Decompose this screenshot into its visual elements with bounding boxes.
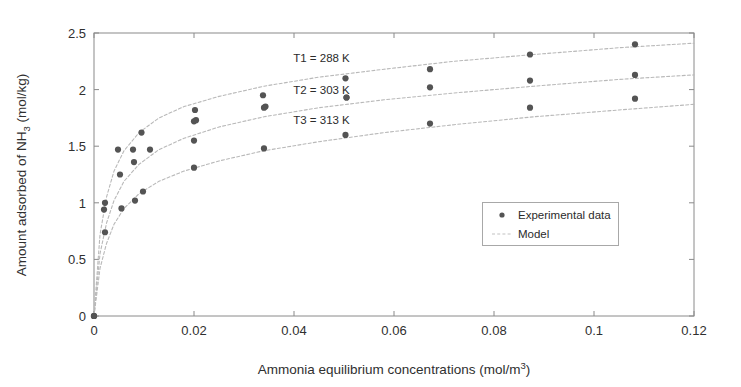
chart-legend[interactable]: Experimental data Model: [483, 203, 619, 246]
legend-label-model: Model: [518, 228, 549, 240]
data-point-s0-5: [192, 107, 198, 113]
y-tick-label-3: 1.5: [68, 139, 86, 154]
data-point-s2-1: [102, 229, 108, 235]
x-tick-label-4: 0.08: [481, 323, 506, 338]
y-tick-label-2: 1: [79, 196, 86, 211]
experimental-points-group: [91, 41, 638, 319]
chart-canvas: 00.020.040.060.080.10.1200.511.522.5 T1 …: [0, 0, 741, 387]
x-tick-label-5: 0.1: [585, 323, 603, 338]
data-point-s1-10: [527, 77, 533, 83]
data-point-s0-1: [102, 200, 108, 206]
data-point-s0-2: [115, 147, 121, 153]
data-point-s1-3: [131, 159, 137, 165]
data-point-s2-3: [132, 197, 138, 203]
data-point-s2-9: [527, 105, 533, 111]
annotation-2: T2 = 303 K: [293, 84, 350, 96]
x-tick-label-2: 0.04: [281, 323, 306, 338]
data-point-s2-0: [91, 313, 97, 319]
data-point-s2-4: [140, 188, 146, 194]
x-tick-label-6: 0.12: [681, 323, 706, 338]
y-axis-title-tail: (mol/kg): [14, 74, 29, 127]
series-annotations-group: T1 = 288 KT2 = 303 KT3 = 313 K: [293, 52, 350, 126]
data-point-s0-12: [527, 51, 533, 57]
y-tick-label-1: 0.5: [68, 252, 86, 267]
x-axis-title-tail: ): [526, 362, 531, 377]
y-axis-title: Amount adsorbed of NH3 (mol/kg): [14, 74, 32, 277]
x-axis-title: Ammonia equilibrium concentrations (mol/…: [258, 360, 530, 377]
data-point-s0-9: [342, 75, 348, 81]
y-axis-title-main: Amount adsorbed of NH: [14, 131, 29, 276]
axes-group: [94, 33, 694, 316]
data-point-s0-11: [427, 66, 433, 72]
data-point-s2-8: [427, 120, 433, 126]
annotation-3: T3 = 313 K: [293, 114, 350, 126]
data-point-s1-5: [191, 137, 197, 143]
tick-labels-group: 00.020.040.060.080.10.1200.511.522.5: [68, 26, 707, 338]
annotation-1: T1 = 288 K: [293, 52, 350, 64]
plot-frame: [94, 33, 694, 316]
data-point-s0-4: [138, 130, 144, 136]
data-point-s0-13: [632, 41, 638, 47]
x-axis-title-main: Ammonia equilibrium concentrations (mol/…: [258, 362, 521, 377]
model-curve-series-0: [94, 43, 694, 316]
data-point-s0-3: [130, 147, 136, 153]
data-point-s1-4: [147, 147, 153, 153]
data-point-s2-10: [632, 96, 638, 102]
data-point-s0-7: [260, 92, 266, 98]
data-point-s2-7: [342, 132, 348, 138]
x-tick-label-0: 0: [90, 323, 97, 338]
legend-label-experimental-data: Experimental data: [518, 209, 611, 221]
x-tick-label-3: 0.06: [381, 323, 406, 338]
data-point-s2-6: [261, 145, 267, 151]
data-point-s1-7: [261, 105, 267, 111]
data-point-s1-6: [191, 118, 197, 124]
data-point-s1-11: [632, 72, 638, 78]
data-point-s2-2: [118, 205, 124, 211]
x-tick-label-1: 0.02: [181, 323, 206, 338]
y-tick-label-5: 2.5: [68, 26, 86, 41]
data-point-s2-5: [191, 165, 197, 171]
data-point-s1-9: [427, 84, 433, 90]
y-tick-label-4: 2: [79, 83, 86, 98]
chart-figure: 00.020.040.060.080.10.1200.511.522.5 T1 …: [0, 0, 741, 387]
y-tick-label-0: 0: [79, 309, 86, 324]
data-point-s1-1: [101, 206, 107, 212]
data-point-s1-2: [117, 171, 123, 177]
legend-marker-experimental-data: [499, 212, 504, 217]
model-curves-group: [94, 43, 694, 316]
